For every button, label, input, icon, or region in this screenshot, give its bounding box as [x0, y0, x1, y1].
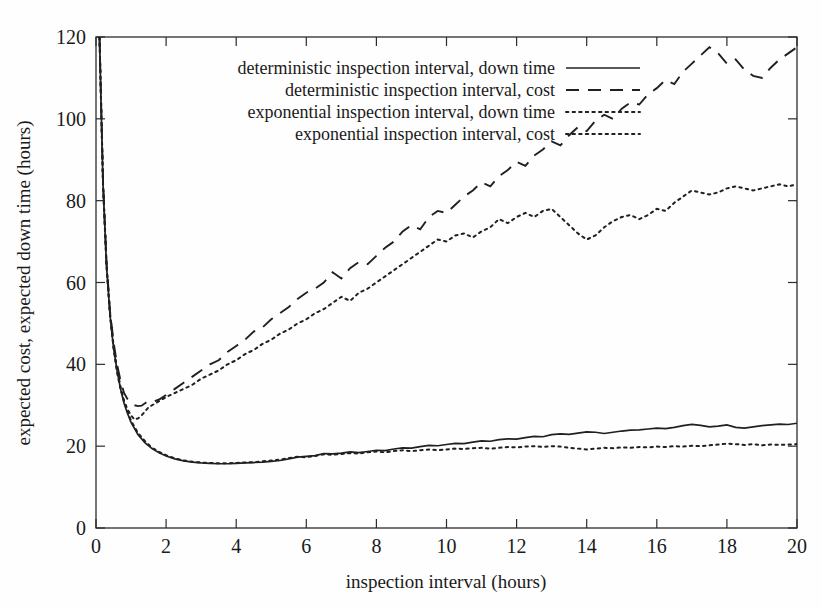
chart-canvas: 02468101214161820 020406080100120 inspec…	[0, 0, 821, 610]
x-tick-label: 20	[787, 535, 807, 557]
x-tick-label: 8	[371, 535, 381, 557]
y-tick-label: 60	[66, 272, 86, 294]
x-tick-label: 4	[231, 535, 241, 557]
y-axis-tick-labels: 020406080100120	[56, 26, 86, 539]
chart-legend: deterministic inspection interval, down …	[238, 58, 640, 144]
legend-label-0: deterministic inspection interval, down …	[238, 58, 555, 78]
y-tick-label: 0	[76, 517, 86, 539]
legend-label-2: exponential inspection interval, down ti…	[248, 102, 555, 122]
y-tick-label: 80	[66, 190, 86, 212]
x-tick-label: 2	[161, 535, 171, 557]
chart-figure: 02468101214161820 020406080100120 inspec…	[0, 0, 821, 610]
x-tick-label: 12	[507, 535, 527, 557]
y-axis-label: expected cost, expected down time (hours…	[13, 121, 35, 446]
legend-label-3: exponential inspection interval, cost	[295, 124, 555, 144]
legend-label-1: deterministic inspection interval, cost	[285, 80, 555, 100]
x-tick-label: 6	[301, 535, 311, 557]
y-tick-label: 20	[66, 435, 86, 457]
x-axis-label: inspection interval (hours)	[346, 571, 547, 593]
x-tick-label: 16	[647, 535, 667, 557]
x-tick-label: 14	[577, 535, 597, 557]
series-line-0	[100, 37, 798, 464]
data-series-group	[100, 37, 798, 464]
y-tick-label: 40	[66, 353, 86, 375]
x-tick-label: 10	[437, 535, 457, 557]
y-tick-label: 100	[56, 108, 86, 130]
series-line-2	[100, 37, 798, 463]
y-tick-label: 120	[56, 26, 86, 48]
x-tick-label: 0	[91, 535, 101, 557]
x-tick-label: 18	[717, 535, 737, 557]
x-axis-tick-labels: 02468101214161820	[91, 535, 807, 557]
